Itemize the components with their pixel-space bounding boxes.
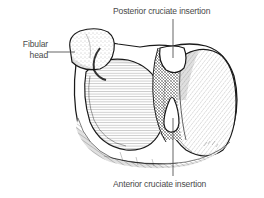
label-posterior-cruciate-insertion: Posterior cruciate insertion <box>113 6 210 17</box>
label-fibular-head: Fibular head <box>9 39 48 61</box>
anatomical-illustration-tibial-plateau: Posterior cruciate insertion Anterior cr… <box>0 0 264 198</box>
label-anterior-cruciate-insertion: Anterior cruciate insertion <box>113 179 206 190</box>
label-fibular-head-line1: Fibular <box>23 39 48 49</box>
label-fibular-head-line2: head <box>30 50 48 60</box>
tibial-plateau-drawing <box>0 0 264 198</box>
